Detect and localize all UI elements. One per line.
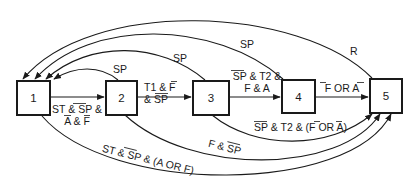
state-label: 5 (383, 90, 389, 102)
svg-text:SP & T2 &: SP & T2 & (233, 70, 282, 82)
svg-text:SP & T2 & (F OR A): SP & T2 & (F OR A) (254, 121, 347, 133)
edge-2-to-1 (54, 69, 118, 80)
state-label: 2 (118, 92, 124, 104)
state-box-1: 1 (17, 81, 50, 115)
label-4-to-1: SP (240, 38, 254, 50)
state-box-3: 3 (193, 81, 229, 115)
state-transition-diagram: 1 2 3 4 5 ST & SP & A & F T1 & F & SP SP… (0, 0, 417, 187)
label-3-to-4: SP & T2 & F & A (231, 70, 281, 94)
label-4-to-5: F OR A (320, 82, 364, 94)
svg-text:ST & SP &: ST & SP & (52, 103, 102, 115)
state-box-2: 2 (106, 81, 137, 115)
svg-text:F OR A: F OR A (325, 82, 359, 94)
label-3-to-1: SP (173, 52, 187, 64)
svg-text:F & A: F & A (244, 82, 270, 94)
label-2-to-3: T1 & F & SP (144, 81, 177, 105)
state-box-4: 4 (282, 80, 315, 113)
svg-text:A & F: A & F (64, 115, 90, 127)
svg-text:F & SP: F & SP (207, 137, 242, 157)
label-3-to-5: SP & T2 & (F OR A) (254, 121, 347, 133)
svg-text:& SP: & SP (144, 93, 168, 105)
svg-text:T1 & F: T1 & F (144, 81, 176, 93)
state-label: 1 (30, 92, 36, 104)
label-1-to-2: ST & SP & A & F (52, 103, 102, 127)
label-5-to-1: R (350, 45, 358, 57)
label-2-to-5: F & SP (207, 137, 242, 157)
state-label: 3 (208, 92, 214, 104)
label-2-to-1: SP (113, 63, 127, 75)
state-box-5: 5 (370, 79, 402, 113)
state-label: 4 (295, 91, 302, 103)
